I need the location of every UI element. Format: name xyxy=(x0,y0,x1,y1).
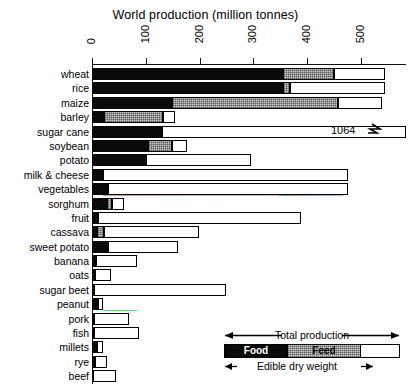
bar-segment-other xyxy=(172,140,187,152)
bar-row: sorghum xyxy=(0,197,411,211)
x-axis-tick-label: 100 xyxy=(140,25,151,43)
bar-segment-food xyxy=(92,97,172,109)
bar-segment-food xyxy=(92,82,283,94)
legend: Total production Food Feed Edible dry we… xyxy=(224,328,400,374)
x-axis-tick-label: 500 xyxy=(355,25,366,43)
bar-row: pork xyxy=(0,312,411,326)
bar-row: banana xyxy=(0,254,411,268)
bar-row: barley xyxy=(0,110,411,124)
bar-row: soybean xyxy=(0,139,411,153)
bar-row-label: sugar cane xyxy=(0,125,89,139)
bar-segment-food xyxy=(92,169,103,181)
bar-segment-food xyxy=(92,154,146,166)
bar-row-label: beef xyxy=(0,369,89,383)
bar-row: maize xyxy=(0,96,411,110)
x-axis-tick-label: 300 xyxy=(247,25,258,43)
x-axis-line xyxy=(92,64,406,65)
legend-swatch-bar: Food Feed xyxy=(224,344,400,358)
bar-segment-other xyxy=(98,298,103,310)
bar-row-label: barley xyxy=(0,110,89,124)
legend-feed-swatch: Feed xyxy=(287,345,361,357)
bar-segment-other xyxy=(338,97,382,109)
x-axis-tick xyxy=(361,58,362,64)
arrow-right-icon xyxy=(340,331,400,340)
bar-segment-feed xyxy=(97,226,105,238)
bar-segment-other xyxy=(104,226,199,238)
bar-row-label: peanut xyxy=(0,297,89,311)
bar-row: fruit xyxy=(0,211,411,225)
bar-row-label: millets xyxy=(0,340,89,354)
bar-row-label: sorghum xyxy=(0,197,89,211)
bar-segment-food xyxy=(92,198,107,210)
x-axis-tick xyxy=(307,58,308,64)
break-value-label: 1064 xyxy=(331,124,355,136)
bar-row: rice xyxy=(0,81,411,95)
bar-segment-other xyxy=(108,241,178,253)
bar-row: peanut xyxy=(0,297,411,311)
bar-row-label: sugar beet xyxy=(0,283,89,297)
axis-break-icon xyxy=(366,122,384,138)
bar-segment-other xyxy=(163,111,175,123)
bar-segment-other xyxy=(108,183,348,195)
chart-root: World production (million tonnes) 010020… xyxy=(0,0,411,389)
bar-row: sweet potato xyxy=(0,240,411,254)
bar-row-label: cassava xyxy=(0,225,89,239)
bar-row-label: vegetables xyxy=(0,182,89,196)
bar-row-label: rice xyxy=(0,81,89,95)
bar-row-label: soybean xyxy=(0,139,89,153)
bar-row: milk & cheese xyxy=(0,168,411,182)
bar-row: vegetables xyxy=(0,182,411,196)
x-axis-tick-label: 200 xyxy=(194,25,205,43)
x-axis-tick-label: 0 xyxy=(86,38,97,44)
bar-segment-food xyxy=(92,183,108,195)
bar-segment-food xyxy=(92,241,108,253)
bar-segment-feed xyxy=(104,111,163,123)
legend-total-row: Total production xyxy=(224,328,400,343)
bar-segment-other xyxy=(146,154,251,166)
bar-row-label: banana xyxy=(0,254,89,268)
x-axis-tick xyxy=(200,58,201,64)
bar-segment-other xyxy=(94,284,226,296)
bar-row: sugar beet xyxy=(0,283,411,297)
bar-segment-food xyxy=(92,126,162,138)
legend-edible-label: Edible dry weight xyxy=(232,359,362,373)
bar-segment-feed xyxy=(148,140,172,152)
bar-segment-other xyxy=(98,212,301,224)
bar-row-label: oats xyxy=(0,268,89,282)
x-axis-tick xyxy=(253,58,254,64)
bar-segment-food xyxy=(92,68,283,80)
bar-segment-other xyxy=(93,370,116,382)
bar-segment-other xyxy=(103,169,349,181)
bar-row-label: pork xyxy=(0,312,89,326)
x-axis-tick-label: 400 xyxy=(301,25,312,43)
bar-row-label: milk & cheese xyxy=(0,168,89,182)
bar-row: potato xyxy=(0,153,411,167)
bar-row-label: potato xyxy=(0,153,89,167)
bar-row-label: rye xyxy=(0,355,89,369)
legend-food-swatch: Food xyxy=(225,345,287,357)
bar-row-label: wheat xyxy=(0,67,89,81)
bar-segment-other xyxy=(95,269,111,281)
bar-segment-other xyxy=(290,82,385,94)
bar-row-label: sweet potato xyxy=(0,240,89,254)
bar-segment-other xyxy=(94,313,129,325)
x-axis-tick xyxy=(146,58,147,64)
arrow-right-small-icon xyxy=(360,362,374,371)
bar-segment-other xyxy=(112,198,124,210)
bar-row-label: fruit xyxy=(0,211,89,225)
bar-segment-other xyxy=(97,341,102,353)
bar-segment-other xyxy=(94,327,140,339)
chart-title: World production (million tonnes) xyxy=(0,8,411,22)
bar-row: cassava xyxy=(0,225,411,239)
bar-segment-feed xyxy=(172,97,339,109)
bar-segment-food xyxy=(92,140,148,152)
bar-segment-other xyxy=(96,255,136,267)
bar-segment-feed xyxy=(283,68,334,80)
bar-segment-food xyxy=(92,111,104,123)
bar-row: wheat xyxy=(0,67,411,81)
bar-segment-other xyxy=(95,356,107,368)
bar-row-label: maize xyxy=(0,96,89,110)
bar-row: oats xyxy=(0,268,411,282)
bar-segment-other xyxy=(334,68,385,80)
bar-row-label: fish xyxy=(0,326,89,340)
